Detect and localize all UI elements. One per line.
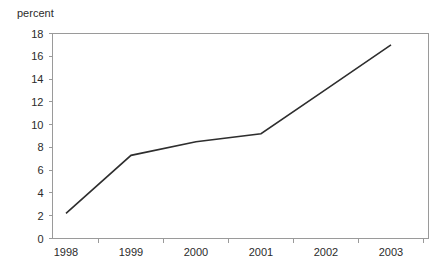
x-tick-label: 2001	[249, 246, 273, 258]
y-tick-label: 0	[37, 233, 43, 245]
y-tick-label: 14	[31, 73, 43, 85]
data-series-group	[66, 45, 391, 214]
chart-canvas: percent 024681012141618 1998199920002001…	[0, 0, 438, 273]
y-tick-label: 12	[31, 96, 43, 108]
x-tick-label: 1998	[54, 246, 78, 258]
x-tick-label: 2000	[184, 246, 208, 258]
y-tick-label: 10	[31, 119, 43, 131]
y-tick-label: 16	[31, 50, 43, 62]
y-tick-label: 6	[37, 164, 43, 176]
x-tick-label: 2003	[379, 246, 403, 258]
y-tick-label: 8	[37, 141, 43, 153]
y-axis-ticks: 024681012141618	[31, 28, 52, 245]
data-line-percent	[66, 45, 391, 214]
y-tick-label: 2	[37, 210, 43, 222]
y-axis-title: percent	[17, 7, 54, 19]
line-chart: percent 024681012141618 1998199920002001…	[0, 0, 438, 273]
x-tick-label: 1999	[119, 246, 143, 258]
y-tick-label: 4	[37, 187, 43, 199]
x-axis-ticks: 199819992000200120022003	[54, 239, 424, 258]
x-tick-label: 2002	[314, 246, 338, 258]
y-tick-label: 18	[31, 28, 43, 40]
